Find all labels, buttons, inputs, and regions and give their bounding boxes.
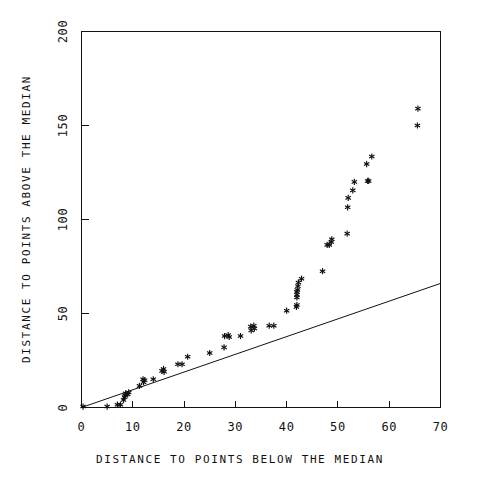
x-tick-label-0: 0 — [78, 420, 86, 434]
y-axis-title: DISTANCE TO POINTS ABOVE THE MEDIAN — [20, 75, 33, 363]
y-tick-label-100: 100 — [56, 208, 70, 231]
x-tick-label-40: 40 — [279, 420, 295, 434]
x-tick-label-30: 30 — [228, 420, 244, 434]
x-tick-label-10: 10 — [125, 420, 141, 434]
x-axis-title: DISTANCE TO POINTS BELOW THE MEDIAN — [96, 453, 384, 466]
x-tick-label-50: 50 — [330, 420, 346, 434]
scatter-chart: 010203040506070 050100150200 DISTANCE TO… — [0, 0, 481, 483]
x-tick-label-70: 70 — [433, 420, 449, 434]
y-tick-label-200: 200 — [56, 20, 70, 43]
y-tick-label-50: 50 — [56, 306, 70, 322]
chart-background — [0, 0, 481, 483]
y-tick-label-0: 0 — [56, 404, 70, 412]
y-tick-label-150: 150 — [56, 114, 70, 137]
chart-figure: 010203040506070 050100150200 DISTANCE TO… — [0, 0, 481, 483]
x-tick-label-60: 60 — [381, 420, 397, 434]
x-tick-label-20: 20 — [176, 420, 192, 434]
